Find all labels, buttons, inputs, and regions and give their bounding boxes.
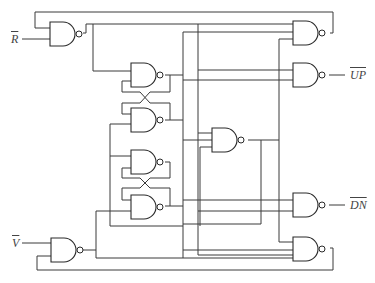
latch-gate-c — [131, 150, 163, 174]
center-gate — [212, 128, 244, 152]
wire-e-to-rg4 — [279, 140, 293, 242]
wire-top-feedback — [35, 12, 333, 33]
latch-gate-a — [131, 63, 163, 87]
output-label-dn-bar: DN — [350, 199, 367, 211]
wire-e-to-rg1 — [279, 39, 293, 140]
output-label-up-bar: UP — [350, 69, 366, 81]
latch-gate-d — [131, 195, 163, 219]
wire-e-in3 — [200, 147, 212, 226]
right-gate-4 — [293, 237, 325, 261]
wire-g1-to-latch — [93, 24, 131, 71]
logic-circuit-diagram — [0, 0, 375, 283]
wire-f-out — [82, 211, 131, 250]
right-gate-1 — [293, 21, 325, 45]
input-label-r-bar: R — [11, 33, 18, 45]
right-gate-dn — [293, 193, 325, 217]
latch-gate-b — [131, 108, 163, 132]
input-label-v-bar: V — [12, 237, 19, 249]
nand-gate-r — [50, 22, 82, 46]
nand-gate-v — [51, 238, 83, 262]
wire-f-out-right — [96, 250, 293, 258]
right-gate-up — [293, 63, 325, 87]
wires — [22, 12, 345, 270]
